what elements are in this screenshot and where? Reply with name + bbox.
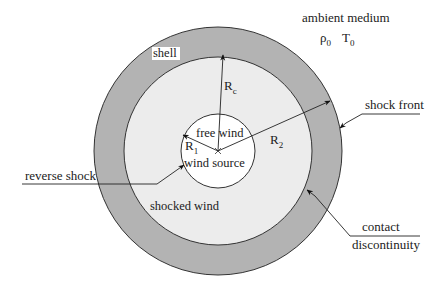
shock-front-leader bbox=[340, 114, 420, 128]
wind-source-label: wind source bbox=[184, 156, 245, 170]
ambient-medium-label: ambient medium bbox=[302, 10, 390, 25]
contact-label: contact bbox=[362, 219, 400, 234]
discontinuity-label: discontinuity bbox=[352, 237, 420, 252]
wind-bubble-diagram: ambient medium ρ0 T0 shell Rc R2 R1 free… bbox=[0, 0, 442, 289]
free-wind-label: free wind bbox=[196, 126, 244, 140]
shock-front-label: shock front bbox=[365, 97, 424, 112]
ambient-rho-label: ρ0 bbox=[320, 30, 332, 48]
shocked-wind-label: shocked wind bbox=[150, 199, 220, 213]
ambient-temperature-label: T0 bbox=[342, 30, 355, 48]
reverse-shock-label: reverse shock bbox=[25, 168, 97, 183]
shell-label: shell bbox=[153, 46, 177, 60]
